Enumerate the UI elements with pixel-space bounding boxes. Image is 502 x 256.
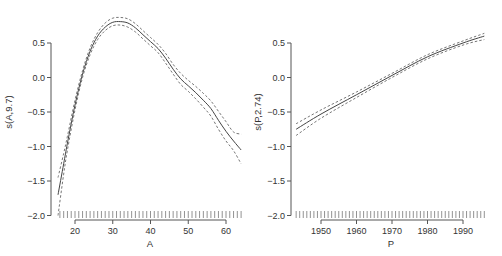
y-tick-label: −1.0 [27,142,45,152]
y-tick-label: 0.0 [272,73,285,83]
rug-marks [296,211,484,218]
x-tick-label: 60 [221,226,231,236]
x-axis-label: A [147,238,154,249]
left-panel-s-of-A: 0.50.0−0.5−1.0−1.5−2.0s(A,9.7)2030405060… [3,17,241,249]
y-axis-label: s(A,9.7) [3,95,14,128]
y-tick-label: −0.5 [267,107,285,117]
x-tick-label: 1970 [382,226,402,236]
y-axis: 0.50.0−0.5−1.0−1.5−2.0 [267,38,291,221]
right-panel-s-of-P: 0.50.0−0.5−1.0−1.5−2.0s(P,2.74)195019601… [252,33,484,249]
y-tick-label: 0.5 [32,38,45,48]
y-tick-label: −2.0 [27,211,45,221]
x-axis: 2030405060 [70,220,231,236]
y-tick-label: 0.5 [272,38,285,48]
y-axis-label: s(P,2.74) [252,93,263,130]
y-tick-label: −1.5 [267,176,285,186]
x-tick-label: 50 [183,226,193,236]
y-tick-label: −1.0 [267,142,285,152]
chart-canvas: 0.50.0−0.5−1.0−1.5−2.0s(A,9.7)2030405060… [0,0,502,256]
x-tick-label: 30 [108,226,118,236]
x-tick-label: 1990 [453,226,473,236]
x-tick-label: 1960 [346,226,366,236]
x-axis: 19501960197019801990 [311,220,473,236]
fit-line [296,36,484,129]
confidence-band-lower [296,40,484,136]
y-tick-label: 0.0 [32,73,45,83]
x-tick-label: 40 [145,226,155,236]
x-tick-label: 1950 [311,226,331,236]
confidence-band-lower [58,25,241,216]
x-tick-label: 20 [70,226,80,236]
rug-marks [60,211,241,218]
x-axis-label: P [388,238,394,249]
y-tick-label: −1.5 [27,176,45,186]
y-tick-label: −0.5 [27,107,45,117]
fit-line [58,22,241,195]
x-tick-label: 1980 [417,226,437,236]
y-tick-label: −2.0 [267,211,285,221]
y-axis: 0.50.0−0.5−1.0−1.5−2.0 [27,38,51,221]
